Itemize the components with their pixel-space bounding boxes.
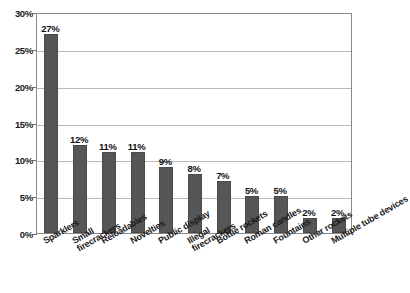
gridline [37, 51, 351, 52]
bar-value-label: 5% [235, 185, 267, 196]
y-axis-tick-label: 20% [0, 81, 33, 92]
gridline [37, 88, 351, 89]
bar-value-label: 12% [63, 134, 95, 145]
y-axis-tick-label: 10% [0, 155, 33, 166]
bar-value-label: 9% [149, 156, 181, 167]
y-axis-tick-label: 5% [0, 192, 33, 203]
plot-area [36, 13, 352, 234]
bar-value-label: 5% [264, 185, 296, 196]
bar-value-label: 11% [121, 141, 153, 152]
bar-value-label: 27% [34, 23, 66, 34]
gridline [37, 125, 351, 126]
bar[interactable] [44, 34, 58, 233]
bar-value-label: 11% [92, 141, 124, 152]
y-axis-tick-label: 30% [0, 8, 33, 19]
y-axis-tick-label: 0% [0, 229, 33, 240]
bar-value-label: 7% [207, 170, 239, 181]
y-axis-tick-label: 25% [0, 44, 33, 55]
bar-value-label: 8% [178, 163, 210, 174]
y-axis-tick-label: 15% [0, 118, 33, 129]
